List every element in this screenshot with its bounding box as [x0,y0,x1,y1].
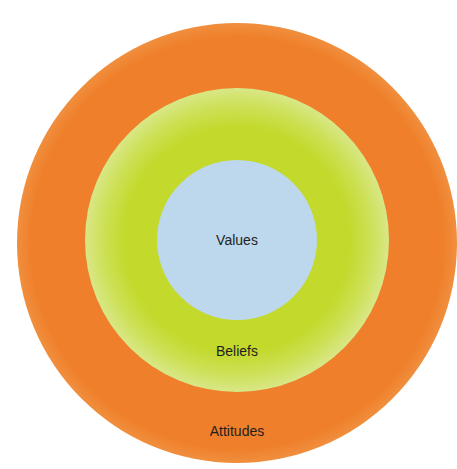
values-label: Values [177,232,297,248]
beliefs-label: Beliefs [177,343,297,359]
attitudes-label: Attitudes [177,423,297,439]
